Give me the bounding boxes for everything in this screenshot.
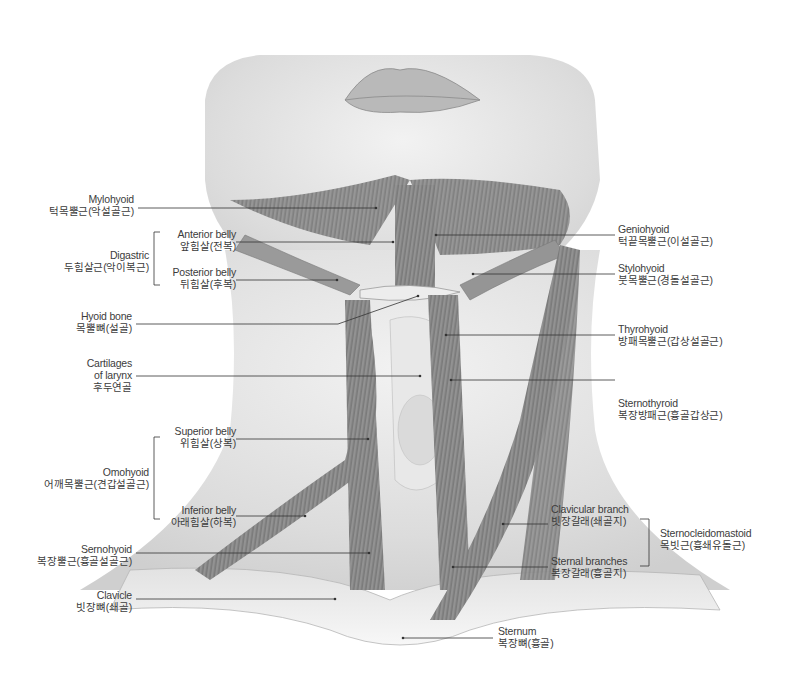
label-digastric-posterior-belly: Posterior belly 뒤힘살(후복) bbox=[172, 266, 236, 290]
label-digastric: Digastric 두힘살근(악이복근) bbox=[64, 249, 149, 273]
label-omohyoid: Omohyoid 어깨목뿔근(견갑설골근) bbox=[44, 466, 149, 490]
label-sternum: Sternum 복장뼈(흉골) bbox=[498, 625, 554, 649]
label-cartilages-of-larynx: Cartilages of larynx 후두연골 bbox=[87, 357, 132, 393]
label-scm-clavicular-branch: Clavicular branch 빗장갈래(쇄골지) bbox=[551, 503, 629, 527]
label-sternothyroid: Sternothyroid 복장방패근(흉골갑상근) bbox=[618, 397, 723, 421]
label-omohyoid-inferior-belly: Inferior belly 아래힘살(하복) bbox=[171, 504, 236, 528]
label-geniohyoid: Geniohyoid 턱끝목뿔근(이설골근) bbox=[618, 223, 713, 247]
label-scm-sternal-branches: Sternal branches 복장갈래(흉골지) bbox=[551, 555, 627, 579]
label-digastric-anterior-belly: Anterior belly 앞힘살(전복) bbox=[178, 228, 236, 252]
label-clavicle: Clavicle 빗장뼈(쇄골) bbox=[76, 589, 132, 613]
label-hyoid-bone: Hyoid bone 목뿔뼈(설골) bbox=[76, 310, 132, 334]
label-sternocleidomastoid: Sternocleidomastoid 목빗근(흉쇄유돌근) bbox=[660, 527, 751, 551]
label-stylohyoid: Stylohyoid 붓목뿔근(경돌설골근) bbox=[618, 262, 713, 286]
label-mylohyoid: Mylohyoid 턱목뿔근(악설골근) bbox=[49, 193, 134, 217]
label-sternohyoid: Sernohyoid 복장뿔근(흉골설골근) bbox=[37, 543, 132, 567]
label-omohyoid-superior-belly: Superior belly 위힘살(상복) bbox=[175, 425, 236, 449]
label-thyrohyoid: Thyrohyoid 방패목뿔근(갑상설골근) bbox=[618, 323, 723, 347]
